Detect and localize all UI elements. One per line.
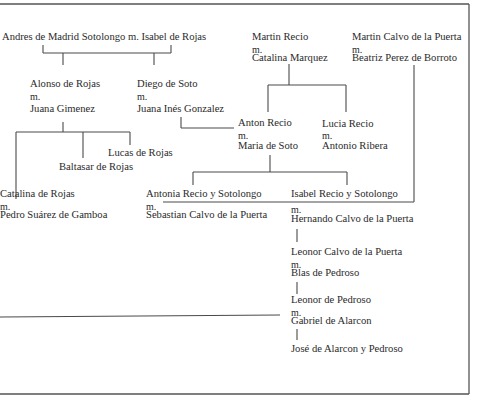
family-tree-diagram: Andres de Madrid Sotolongo m. Isabel de … (0, 0, 496, 409)
spouse-blas-de-pedroso: Blas de Pedroso (291, 266, 359, 279)
spouse-maria-de-soto: Maria de Soto (238, 139, 298, 152)
spouse-juana-gimenez: Juana Gimenez (30, 102, 95, 115)
person-isabel-recio-y-sotolongo: Isabel Recio y Sotolongo (291, 187, 398, 200)
spouse-sebastian-calvo-de-la-puerta: Sebastian Calvo de la Puerta (146, 208, 267, 221)
spouse-antonio-ribera: Antonio Ribera (322, 139, 388, 152)
person-antonia-recio-y-sotolongo: Antonia Recio y Sotolongo (146, 187, 262, 200)
person-leonor-de-pedroso: Leonor de Pedroso (291, 293, 371, 306)
person-alonso-de-rojas: Alonso de Rojas (30, 77, 100, 90)
spouse-gabriel-de-alarcon: Gabriel de Alarcon (291, 314, 372, 327)
spouse-pedro-suarez-de-gamboa: Pedro Suárez de Gamboa (0, 208, 107, 221)
person-martin-recio: Martin Recio (252, 30, 308, 43)
person-diego-de-soto: Diego de Soto (137, 77, 198, 90)
spouse-catalina-marquez: Catalina Marquez (252, 51, 328, 64)
person-catalina-de-rojas: Catalina de Rojas (0, 187, 75, 200)
spouse-juana-ines-gonzalez: Juana Inés Gonzalez (137, 102, 224, 115)
person-baltasar-de-rojas: Baltasar de Rojas (59, 160, 133, 173)
spouse-hernando-calvo-de-la-puerta: Hernando Calvo de la Puerta (291, 212, 413, 225)
person-anton-recio: Anton Recio (238, 116, 292, 129)
person-lucas-de-rojas: Lucas de Rojas (108, 146, 173, 159)
person-jose-de-alarcon-y-pedroso: José de Alarcon y Pedroso (291, 342, 403, 355)
spouse-beatriz-perez-de-borroto: Beatriz Perez de Borroto (352, 51, 457, 64)
person-martin-calvo-de-la-puerta: Martin Calvo de la Puerta (352, 30, 461, 43)
person-leonor-calvo-de-la-puerta: Leonor Calvo de la Puerta (291, 245, 402, 258)
root-couple-label: Andres de Madrid Sotolongo m. Isabel de … (2, 30, 206, 43)
